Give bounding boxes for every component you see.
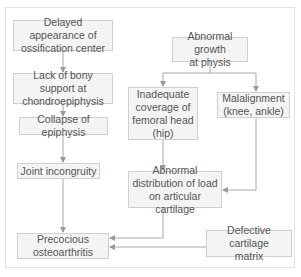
node-joint-incongruity: Joint incongruity xyxy=(17,163,100,179)
node-malalignment: Malalignment (knee, ankle) xyxy=(217,92,290,118)
node-abnormal-growth: Abnormal growth at physis xyxy=(172,37,248,62)
node-precocious-osteoarthritis: Precocious osteoarthritis xyxy=(17,233,109,259)
node-abnormal-load: Abnormal distribution of load on articul… xyxy=(128,171,222,208)
node-collapse-epiphysis: Collapse of epiphysis xyxy=(19,117,108,135)
node-lack-bony-support: Lack of bony support at chondroepiphysis xyxy=(13,73,113,104)
node-defective-matrix: Defective cartilage matrix xyxy=(206,230,292,257)
node-delayed-ossification: Delayed appearance of ossification cente… xyxy=(13,20,113,51)
node-inadequate-coverage: Inadequate coverage of femoral head (hip… xyxy=(128,87,198,140)
